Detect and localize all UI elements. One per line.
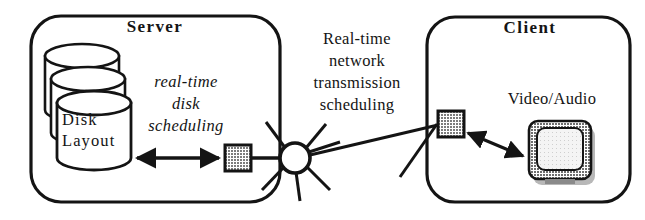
server-title: Server xyxy=(70,18,240,36)
disk-scheduling-label-line2: disk xyxy=(125,94,247,114)
network-hub xyxy=(251,122,340,201)
video-audio-label: Video/Audio xyxy=(477,90,627,108)
diagram-canvas: Server Disk Layout real-time disk schedu… xyxy=(0,0,645,220)
client-title: Client xyxy=(460,19,600,37)
network-scheduling-label-line2: network xyxy=(300,50,414,71)
network-scheduling-label-line4: scheduling xyxy=(300,94,414,115)
disk-scheduling-label-line1: real-time xyxy=(125,72,247,92)
server-network-interface xyxy=(225,145,251,171)
disk-scheduling-label-line3: scheduling xyxy=(121,116,251,136)
network-scheduling-label-line3: transmission xyxy=(297,72,417,93)
client-media-arrow xyxy=(468,133,523,156)
tv-monitor-icon xyxy=(529,121,595,185)
network-scheduling-label-line1: Real-time xyxy=(300,28,414,49)
client-network-interface xyxy=(438,111,464,137)
